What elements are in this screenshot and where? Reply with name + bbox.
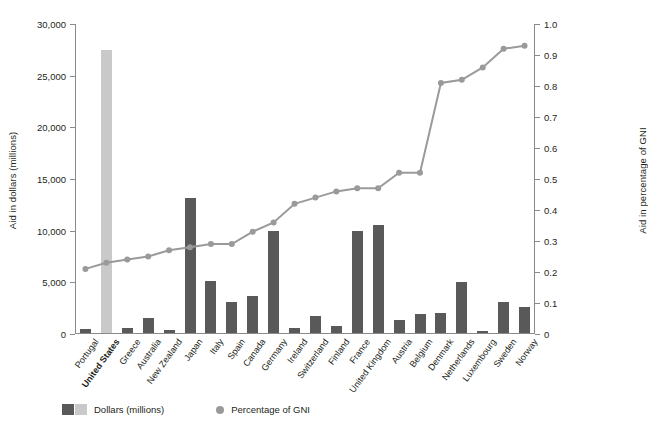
legend-label-gni: Percentage of GNI [231, 404, 310, 415]
category-label: Italy [208, 337, 226, 356]
right-axis-tick [535, 24, 540, 25]
right-axis-tick-label: 0.7 [544, 112, 557, 123]
gni-data-point [396, 170, 402, 176]
left-axis-tick-label: 15,000 [37, 174, 66, 185]
gni-data-point [375, 185, 381, 191]
gni-data-point [250, 229, 256, 235]
right-axis-tick-label: 1.0 [544, 19, 557, 30]
right-axis-tick-label: 0.4 [544, 205, 557, 216]
gni-data-point [166, 247, 172, 253]
gni-data-point [354, 185, 360, 191]
right-axis-tick [535, 179, 540, 180]
right-axis-tick [535, 86, 540, 87]
gni-data-point [333, 188, 339, 194]
gni-data-point [145, 254, 151, 260]
gni-data-point [208, 241, 214, 247]
right-axis-tick-label: 0.5 [544, 174, 557, 185]
right-axis-tick [535, 210, 540, 211]
gni-data-point [103, 260, 109, 266]
right-axis-title: Aid in percentage of GNI [637, 91, 648, 271]
gni-data-point [187, 244, 193, 250]
plot-area: 05,00010,00015,00020,00025,00030,000 00.… [75, 24, 535, 334]
legend-swatch-light [75, 404, 87, 415]
right-axis-tick [535, 334, 540, 335]
left-axis-tick [70, 334, 75, 335]
right-axis-tick [535, 117, 540, 118]
gni-data-point [522, 43, 528, 49]
gni-data-point [124, 257, 130, 263]
gni-data-point [438, 80, 444, 86]
legend-swatch-dark [62, 404, 74, 415]
left-axis-tick-label: 5,000 [42, 277, 66, 288]
gni-data-point [312, 195, 318, 201]
right-axis-tick-label: 0 [544, 329, 549, 340]
gni-data-point [501, 46, 507, 52]
right-axis-tick-label: 0.1 [544, 298, 557, 309]
legend-dot-icon [216, 406, 224, 414]
legend-entry-gni: Percentage of GNI [216, 404, 310, 415]
gni-data-point [82, 266, 88, 272]
left-axis-tick-label: 25,000 [37, 70, 66, 81]
right-axis-tick-label: 0.9 [544, 50, 557, 61]
right-axis-tick-label: 0.6 [544, 143, 557, 154]
right-axis-tick-label: 0.2 [544, 267, 557, 278]
category-label: Japan [183, 337, 206, 363]
gni-line [85, 46, 524, 269]
legend-entry-dollars: Dollars (millions) [62, 404, 164, 415]
left-axis-title: Aid in dollars (millions) [7, 91, 18, 271]
right-axis-tick [535, 303, 540, 304]
gni-data-point [229, 241, 235, 247]
line-series-gni [75, 24, 535, 334]
right-axis-tick [535, 272, 540, 273]
right-axis-tick [535, 241, 540, 242]
right-axis-tick-label: 0.3 [544, 236, 557, 247]
category-label: United Kingdom [348, 337, 394, 395]
gni-data-point [459, 77, 465, 83]
legend-label-dollars: Dollars (millions) [94, 404, 164, 415]
gni-data-point [417, 170, 423, 176]
left-axis-tick-label: 10,000 [37, 225, 66, 236]
right-axis-tick [535, 148, 540, 149]
left-axis-tick-label: 0 [61, 329, 66, 340]
left-axis-tick-label: 30,000 [37, 19, 66, 30]
right-axis-tick-label: 0.8 [544, 81, 557, 92]
legend: Dollars (millions) Percentage of GNI [62, 404, 310, 415]
right-axis-tick [535, 55, 540, 56]
gni-data-point [292, 201, 298, 207]
gni-data-point [480, 64, 486, 70]
gni-data-point [271, 219, 277, 225]
left-axis-tick-label: 20,000 [37, 122, 66, 133]
